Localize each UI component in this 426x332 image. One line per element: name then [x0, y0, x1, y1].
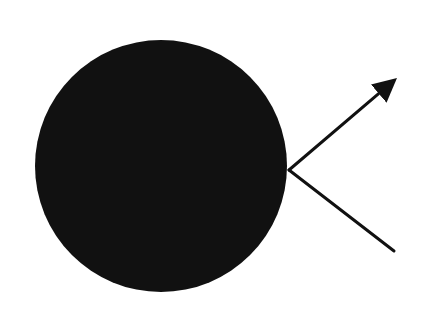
diagram-canvas [0, 0, 426, 332]
filled-circle [35, 40, 287, 292]
arrow-line-upper-right [289, 82, 392, 170]
line-lower-right [289, 170, 394, 251]
